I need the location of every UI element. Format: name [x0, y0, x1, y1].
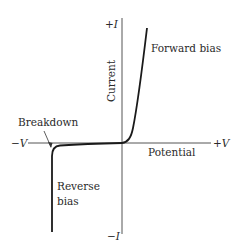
x-axis-label: Potential — [148, 147, 195, 158]
diode-iv-diagram: +I Forward bias Current Breakdown −V +V … — [0, 0, 240, 251]
breakdown-arrowhead-icon — [48, 142, 53, 148]
reverse-bias-label-line2: bias — [57, 196, 79, 207]
breakdown-label: Breakdown — [18, 117, 78, 128]
forward-bias-label: Forward bias — [151, 43, 221, 54]
y-negative-label: −I — [107, 231, 120, 242]
y-positive-label: +I — [105, 19, 118, 30]
forward-bias-curve — [122, 28, 147, 143]
reverse-bias-label-line1: Reverse — [57, 181, 100, 192]
x-negative-label: −V — [11, 138, 27, 149]
x-positive-label: +V — [213, 138, 229, 149]
y-axis-label: Current — [106, 60, 117, 102]
